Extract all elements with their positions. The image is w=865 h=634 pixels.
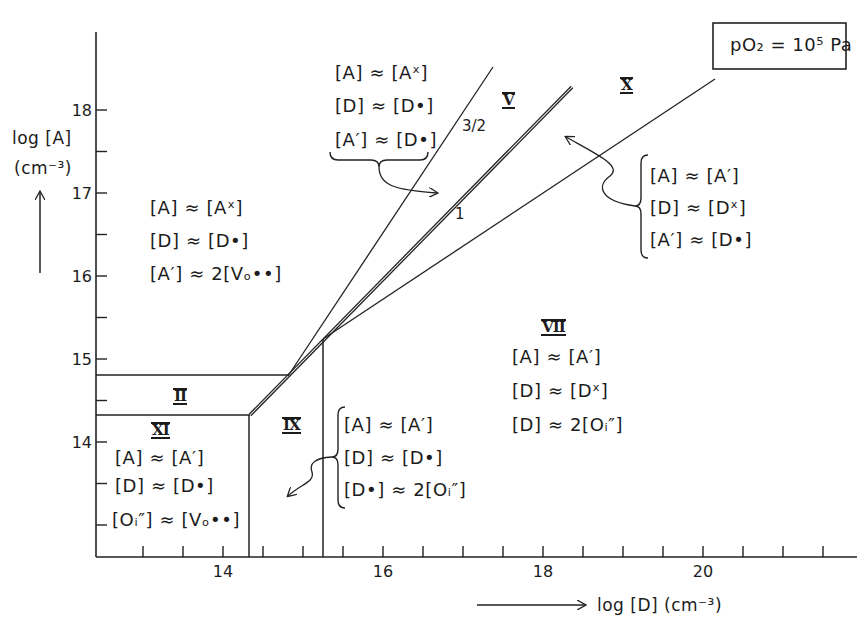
x-axis-ticks bbox=[143, 546, 823, 557]
condition: [A] ≈ [A′] bbox=[115, 449, 204, 467]
y-axis-ticks bbox=[96, 110, 107, 525]
x-tick-label: 20 bbox=[683, 564, 723, 580]
condition: [D] ≈ [D•] bbox=[115, 477, 214, 495]
y-tick-label: 14 bbox=[62, 435, 92, 451]
condition: [A] ≈ [A′] bbox=[344, 416, 433, 434]
arrow-ix-block-to-region-ix bbox=[288, 457, 332, 496]
y-tick-label: 15 bbox=[62, 352, 92, 368]
x-tick-label: 14 bbox=[203, 564, 243, 580]
slope-label-three-halves: 3/2 bbox=[462, 119, 486, 134]
condition: [A] ≈ [Aˣ] bbox=[150, 199, 243, 217]
slope-label-one: 1 bbox=[455, 207, 465, 222]
condition: [D] ≈ [D•] bbox=[150, 232, 249, 250]
condition: [A′] ≈ 2[Vₒ••] bbox=[150, 265, 282, 283]
x-tick-label: 18 bbox=[523, 564, 563, 580]
region-label-v: V bbox=[502, 92, 515, 109]
condition: [A] ≈ [A′] bbox=[650, 167, 739, 185]
region-label-vii: VII bbox=[541, 319, 566, 336]
condition: [A] ≈ [Aˣ] bbox=[335, 64, 428, 82]
y-tick-label: 16 bbox=[62, 269, 92, 285]
condition: [D] ≈ [D•] bbox=[344, 449, 443, 467]
condition: [Oᵢ″] ≈ [Vₒ••] bbox=[112, 511, 240, 529]
brouwer-diagram: pO₂ = 10⁵ Pa log [A] (cm⁻³) 18 17 16 15 … bbox=[0, 0, 865, 634]
pressure-label: pO₂ = 10⁵ Pa bbox=[730, 36, 852, 54]
condition: [D] ≈ [D•] bbox=[335, 97, 434, 115]
condition: [A′] ≈ [D•] bbox=[335, 131, 437, 149]
condition: [A′] ≈ [D•] bbox=[650, 231, 752, 249]
region-label-xi: XI bbox=[151, 422, 170, 439]
region-label-ix: IX bbox=[282, 417, 301, 434]
brace-upper-block bbox=[330, 152, 428, 167]
region-label-x: X bbox=[620, 77, 633, 94]
condition: [D•] ≈ 2[Oᵢ″] bbox=[344, 481, 466, 499]
y-axis-unit: (cm⁻³) bbox=[14, 160, 72, 177]
condition: [D] ≈ 2[Oᵢ″] bbox=[512, 416, 623, 434]
condition: [D] ≈ [Dˣ] bbox=[650, 199, 746, 217]
arrow-upper-block-to-region-v bbox=[379, 167, 437, 193]
condition: [A] ≈ [A′] bbox=[512, 348, 601, 366]
region-label-ii: II bbox=[173, 388, 187, 405]
y-tick-label: 18 bbox=[62, 103, 92, 119]
condition: [D] ≈ [Dˣ] bbox=[512, 382, 608, 400]
brace-right-block bbox=[635, 155, 648, 258]
x-axis-title: log [D] (cm⁻³) bbox=[597, 597, 722, 614]
x-tick-label: 16 bbox=[363, 564, 403, 580]
y-tick-label: 17 bbox=[62, 186, 92, 202]
y-axis-title: log [A] bbox=[12, 130, 72, 147]
